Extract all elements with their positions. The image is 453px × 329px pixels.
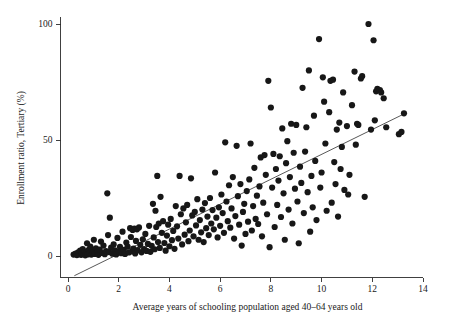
- data-point: [268, 104, 274, 110]
- data-point: [370, 37, 376, 43]
- data-point: [332, 181, 338, 187]
- data-point: [273, 166, 279, 172]
- data-point: [192, 209, 198, 215]
- data-point: [207, 195, 213, 201]
- data-point: [331, 159, 337, 165]
- data-point: [160, 218, 166, 224]
- data-point: [337, 166, 343, 172]
- data-point: [216, 204, 222, 210]
- data-point: [270, 151, 276, 157]
- data-point: [330, 77, 336, 83]
- data-point: [173, 203, 179, 209]
- data-point: [202, 200, 208, 206]
- data-point: [275, 178, 281, 184]
- data-point: [244, 188, 250, 194]
- data-point: [124, 243, 130, 249]
- data-point: [250, 203, 256, 209]
- data-point: [235, 193, 241, 199]
- data-point: [355, 122, 361, 128]
- data-point: [284, 138, 290, 144]
- data-point: [119, 229, 125, 235]
- data-point: [227, 225, 233, 231]
- data-point: [240, 209, 246, 215]
- data-point: [277, 153, 283, 159]
- x-tick-label-2: 2: [116, 284, 121, 294]
- data-point: [294, 198, 300, 204]
- data-point: [169, 237, 175, 243]
- data-point: [381, 95, 387, 101]
- data-point: [237, 181, 243, 187]
- data-point: [182, 232, 188, 238]
- y-tick-label-100: 100: [38, 19, 53, 29]
- data-points-group: [70, 21, 407, 259]
- data-point: [398, 129, 404, 135]
- data-point: [255, 221, 261, 227]
- data-point: [194, 196, 200, 202]
- data-point: [351, 68, 357, 74]
- x-tick-label-6: 6: [218, 284, 223, 294]
- data-point: [346, 172, 352, 178]
- data-point: [283, 160, 289, 166]
- x-axis-title: Average years of schooling population ag…: [133, 302, 363, 312]
- data-point: [234, 143, 240, 149]
- data-point: [297, 164, 303, 170]
- data-point: [260, 200, 266, 206]
- y-tick-label-0: 0: [48, 251, 53, 261]
- data-point: [326, 109, 332, 115]
- data-point: [272, 224, 278, 230]
- data-point: [236, 222, 242, 228]
- data-point: [150, 201, 156, 207]
- data-point: [310, 204, 316, 210]
- data-point: [324, 208, 330, 214]
- data-point: [282, 237, 288, 243]
- data-point: [322, 140, 328, 146]
- data-point: [215, 234, 221, 240]
- data-point: [190, 233, 196, 239]
- data-point: [100, 242, 106, 248]
- data-point: [353, 142, 359, 148]
- data-point: [301, 210, 307, 216]
- data-point: [217, 223, 223, 229]
- data-point: [151, 234, 157, 240]
- data-point: [165, 222, 171, 228]
- data-point: [359, 73, 365, 79]
- data-point: [183, 219, 189, 225]
- data-point: [365, 21, 371, 27]
- data-point: [321, 99, 327, 105]
- data-point: [296, 240, 302, 246]
- data-point: [241, 201, 247, 207]
- data-point: [157, 194, 163, 200]
- data-point: [232, 213, 238, 219]
- data-point: [349, 102, 355, 108]
- data-point: [278, 214, 284, 220]
- data-point: [269, 184, 275, 190]
- data-point: [334, 126, 340, 132]
- data-point: [246, 176, 252, 182]
- data-point: [175, 236, 181, 242]
- data-point: [199, 207, 205, 213]
- data-point: [306, 67, 312, 73]
- data-point: [320, 74, 326, 80]
- data-point: [383, 124, 389, 130]
- data-point: [287, 174, 293, 180]
- data-point: [316, 36, 322, 42]
- data-point: [303, 124, 309, 130]
- data-point: [251, 165, 257, 171]
- data-point: [213, 215, 219, 221]
- data-point: [247, 140, 253, 146]
- axes-group: [56, 17, 423, 282]
- data-point: [152, 208, 158, 214]
- x-tick-label-4: 4: [167, 284, 172, 294]
- data-point: [197, 217, 203, 223]
- data-point: [206, 232, 212, 238]
- data-point: [289, 220, 295, 226]
- data-point: [111, 241, 117, 247]
- data-point: [259, 233, 265, 239]
- data-point: [154, 173, 160, 179]
- data-point: [91, 237, 97, 243]
- data-point: [185, 238, 191, 244]
- data-point: [228, 205, 234, 211]
- data-point: [174, 223, 180, 229]
- data-point: [265, 78, 271, 84]
- data-point: [307, 229, 313, 235]
